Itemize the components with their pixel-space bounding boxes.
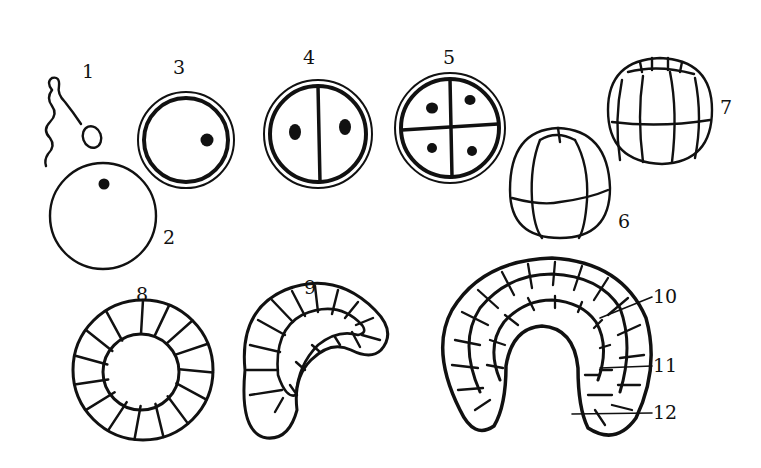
embryo-development-diagram: 1 2 3 4 5 6 7 8 9 10 11 12 [0, 0, 761, 468]
label-12: 12 [653, 403, 677, 422]
label-9: 9 [304, 278, 316, 297]
label-8: 8 [136, 285, 148, 304]
gastrula [443, 258, 652, 435]
blastula [73, 300, 213, 440]
label-11: 11 [653, 356, 677, 375]
label-4: 4 [303, 48, 315, 67]
early-gastrula [244, 283, 388, 438]
label-2: 2 [163, 228, 175, 247]
label-7: 7 [720, 98, 732, 117]
zygote-cell [138, 92, 234, 188]
four-cell-stage [395, 73, 505, 183]
label-10: 10 [653, 287, 677, 306]
label-3: 3 [173, 58, 185, 77]
egg-cell [50, 163, 156, 269]
label-1: 1 [82, 62, 94, 81]
sixteen-cell-stage [608, 58, 712, 164]
label-5: 5 [443, 48, 455, 67]
diagram-drawing [0, 0, 761, 468]
eight-cell-stage [510, 128, 610, 238]
sperm-icon [45, 78, 104, 166]
two-cell-stage [264, 80, 372, 188]
label-6: 6 [618, 212, 630, 231]
